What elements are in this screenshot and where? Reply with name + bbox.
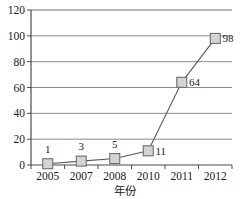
y-tick-label-80: 80	[14, 56, 26, 68]
chart-canvas: 120 100 80 60 40 20 0 2005 2007 2008 201…	[0, 0, 245, 199]
x-axis-title: 年份	[114, 184, 137, 197]
x-tick-label-2005: 2005	[36, 170, 59, 182]
data-point-2005[interactable]	[43, 159, 53, 169]
data-label-2005: 1	[45, 143, 51, 155]
y-tick-label-40: 40	[14, 107, 26, 119]
data-point-2010[interactable]	[143, 146, 153, 156]
data-point-2011[interactable]	[177, 77, 187, 87]
y-tick-label-120: 120	[8, 4, 26, 16]
y-tick-label-60: 60	[14, 82, 26, 94]
y-axis-tick-labels: 120 100 80 60 40 20 0	[8, 4, 26, 171]
data-label-2008: 5	[112, 138, 118, 150]
data-point-2007[interactable]	[76, 156, 86, 166]
x-axis-tick-labels: 2005 2007 2008 2010 2011 2012	[36, 170, 227, 182]
x-tick-label-2012: 2012	[204, 170, 227, 182]
x-axis-ticks	[31, 165, 232, 169]
x-tick-label-2010: 2010	[137, 170, 160, 182]
y-tick-label-100: 100	[8, 30, 26, 42]
x-tick-label-2007: 2007	[70, 170, 93, 182]
data-point-2012[interactable]	[210, 33, 220, 43]
x-tick-label-2011: 2011	[170, 170, 193, 182]
data-label-2011: 64	[189, 76, 201, 88]
x-tick-label-2008: 2008	[103, 170, 126, 182]
y-tick-label-20: 20	[14, 133, 26, 145]
line-chart: 120 100 80 60 40 20 0 2005 2007 2008 201…	[0, 0, 245, 199]
data-label-2007: 3	[79, 140, 85, 152]
data-point-2008[interactable]	[110, 154, 120, 164]
data-label-2012: 98	[223, 32, 235, 44]
data-label-2010: 11	[156, 145, 167, 157]
y-tick-label-0: 0	[19, 159, 25, 171]
